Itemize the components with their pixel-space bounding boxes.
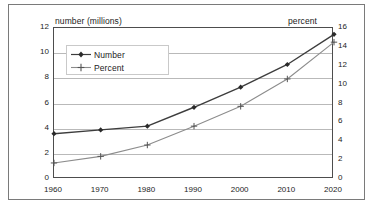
data-point-marker xyxy=(191,105,196,110)
chart-legend: Number Percent xyxy=(66,45,169,75)
x-axis-tick: 1990 xyxy=(173,186,213,194)
x-axis-tick: 1970 xyxy=(80,186,120,194)
right-axis-tick: 4 xyxy=(338,136,360,144)
data-point-marker xyxy=(145,124,150,129)
right-axis-tick: 12 xyxy=(338,61,360,69)
chart-screenshot: number (millions) percent 121086420 1614… xyxy=(0,0,373,208)
plus-marker-icon xyxy=(71,62,91,73)
data-point-marker xyxy=(238,85,243,90)
left-axis-title: number (millions) xyxy=(55,16,122,26)
left-axis-tick: 0 xyxy=(27,174,49,182)
x-axis-tick: 1960 xyxy=(33,186,73,194)
right-axis-tick: 6 xyxy=(338,117,360,125)
left-axis-tick: 12 xyxy=(27,23,49,31)
figure-frame: number (millions) percent 121086420 1614… xyxy=(8,4,365,200)
legend-label-percent: Percent xyxy=(94,63,124,73)
diamond-marker-icon xyxy=(71,49,91,60)
data-point-marker xyxy=(144,142,150,148)
right-axis-tick: 14 xyxy=(338,42,360,50)
legend-entry-number: Number xyxy=(71,48,125,61)
left-axis-tick: 10 xyxy=(27,48,49,56)
x-axis-tick: 1980 xyxy=(126,186,166,194)
right-axis-title: percent xyxy=(288,16,317,26)
legend-label-number: Number xyxy=(94,50,125,60)
data-point-marker xyxy=(98,127,103,132)
x-axis-tick: 2010 xyxy=(266,186,306,194)
x-axis-tick: 2000 xyxy=(220,186,260,194)
data-point-marker xyxy=(237,103,243,109)
left-axis-tick: 6 xyxy=(27,99,49,107)
data-point-marker xyxy=(97,153,103,159)
data-point-marker xyxy=(51,160,57,166)
data-point-marker xyxy=(51,131,56,136)
right-axis-tick: 2 xyxy=(338,155,360,163)
left-axis-tick: 8 xyxy=(27,73,49,81)
right-axis-tick: 10 xyxy=(338,80,360,88)
left-axis-tick: 4 xyxy=(27,124,49,132)
right-axis-tick: 0 xyxy=(338,174,360,182)
legend-entry-percent: Percent xyxy=(71,61,124,74)
data-point-marker xyxy=(191,123,197,129)
right-axis-tick: 8 xyxy=(338,99,360,107)
x-axis-tick: 2020 xyxy=(313,186,353,194)
right-axis-tick: 16 xyxy=(338,23,360,31)
left-axis-tick: 2 xyxy=(27,149,49,157)
